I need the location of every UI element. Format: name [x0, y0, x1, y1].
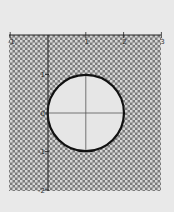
plot-canvas: -1123 10-1-2 — [0, 0, 174, 212]
x-tick-label: 3 — [160, 38, 164, 46]
x-tick-label: 2 — [122, 38, 126, 46]
x-tick-label: -1 — [8, 38, 15, 46]
y-tick-label: -1 — [38, 148, 45, 156]
y-tick-label: -2 — [38, 187, 45, 195]
y-tick-label: 0 — [41, 110, 45, 118]
region-plot: -1123 10-1-2 — [0, 0, 174, 212]
y-tick-label: 1 — [41, 71, 45, 79]
x-tick-label: 1 — [85, 38, 89, 46]
